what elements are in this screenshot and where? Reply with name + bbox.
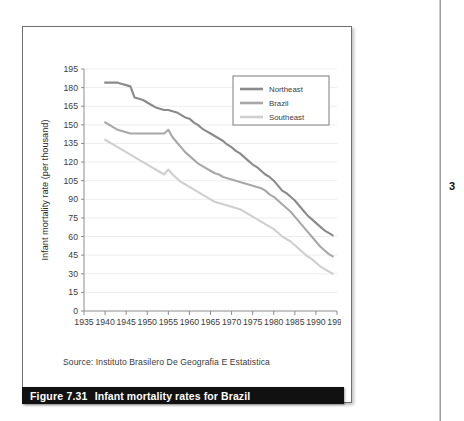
y-tick-label: 135 — [64, 138, 79, 148]
x-tick-label: 1955 — [159, 317, 178, 327]
chart-plot-area: 0153045607590105120135150165180195 19351… — [37, 59, 341, 349]
source-note: Source: Instituto Brasilero De Geografia… — [63, 357, 270, 367]
y-tick-label: 165 — [64, 101, 79, 111]
figure-page: 3 0153045607590105120135150165180195 193… — [0, 0, 464, 421]
y-tick-label: 30 — [68, 269, 78, 279]
x-tick-label: 1990 — [306, 317, 325, 327]
x-tick-label: 1950 — [138, 317, 157, 327]
y-tick-label: 90 — [68, 194, 78, 204]
x-tick-label: 1965 — [201, 317, 220, 327]
page-edge-shadow — [439, 0, 441, 421]
series-line-southeast — [105, 140, 333, 274]
y-tick-label: 0 — [73, 306, 78, 316]
y-tick-label: 45 — [68, 250, 78, 260]
x-tick-label: 1975 — [243, 317, 262, 327]
x-tick-label: 1940 — [95, 317, 114, 327]
x-tick-label: 1980 — [264, 317, 283, 327]
y-tick-label: 120 — [64, 157, 79, 167]
x-tick-label: 1985 — [285, 317, 304, 327]
y-tick-label: 60 — [68, 232, 78, 242]
y-tick-label: 180 — [64, 83, 79, 93]
y-tick-label: 75 — [68, 213, 78, 223]
x-tick-label: 1960 — [180, 317, 199, 327]
caption-number: Figure 7.31 — [30, 390, 88, 402]
y-tick-label: 105 — [64, 176, 79, 186]
legend-label-brazil: Brazil — [269, 99, 289, 108]
caption-text: Infant mortality rates for Brazil — [95, 390, 251, 402]
x-tick-label: 1970 — [222, 317, 241, 327]
x-tick-label: 1995 — [327, 317, 341, 327]
legend-label-southeast: Southeast — [269, 113, 305, 122]
x-axis-ticks: 1935194019451950195519601965197019751980… — [74, 311, 341, 327]
page-number: 3 — [449, 180, 455, 192]
figure-frame: 0153045607590105120135150165180195 19351… — [22, 26, 352, 403]
figure-caption-bar: Figure 7.31 Infant mortality rates for B… — [22, 387, 344, 404]
y-tick-label: 15 — [68, 287, 78, 297]
infant-mortality-line-chart: 0153045607590105120135150165180195 19351… — [37, 59, 341, 349]
y-axis-ticks: 0153045607590105120135150165180195 — [64, 64, 85, 316]
chart-legend: NortheastBrazilSoutheast — [233, 76, 329, 125]
x-tick-label: 1935 — [74, 317, 93, 327]
y-tick-label: 150 — [64, 120, 79, 130]
y-tick-label: 195 — [64, 64, 79, 74]
legend-label-northeast: Northeast — [269, 85, 304, 94]
x-tick-label: 1945 — [117, 317, 136, 327]
y-axis-title: Infant mortality rate (per thousand) — [40, 120, 50, 261]
